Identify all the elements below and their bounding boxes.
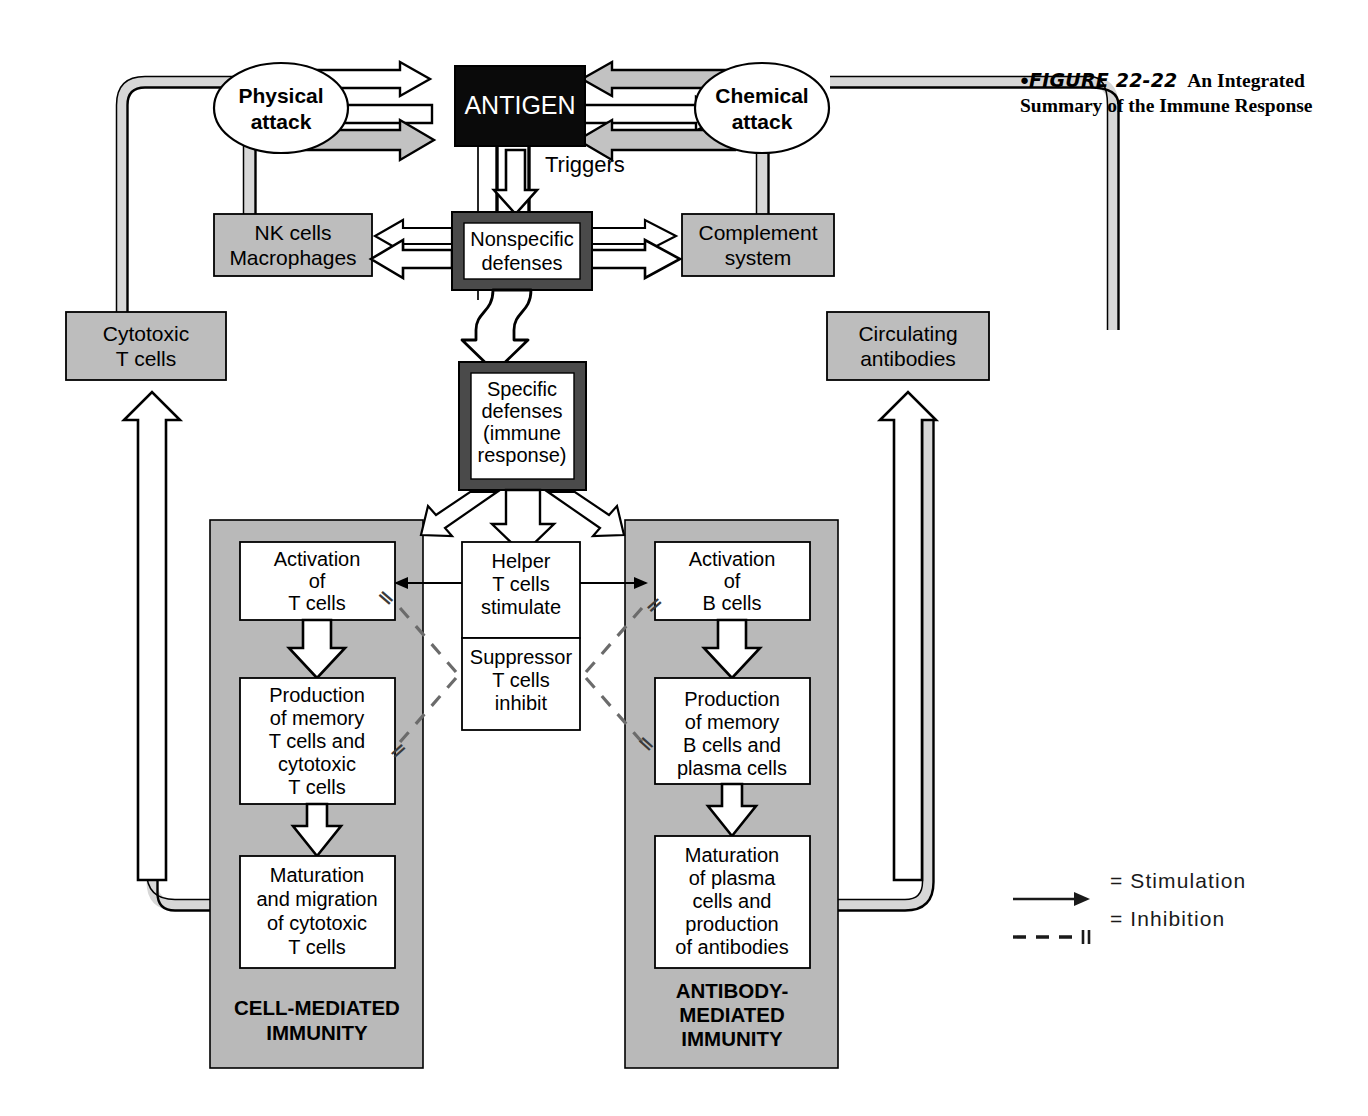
panel-left-label-line2: IMMUNITY [266, 1021, 368, 1044]
node-production-b-line4: plasma cells [677, 757, 787, 779]
figure-canvas: ANTIGEN Physical attack Chemical attack … [0, 0, 1368, 1116]
node-specific-line1: Specific [487, 378, 557, 400]
node-nonspecific-line1: Nonspecific [470, 228, 573, 250]
node-circulating-line1: Circulating [858, 322, 957, 345]
node-activation-t-line3: T cells [288, 592, 345, 614]
node-production-t-line3: T cells and [269, 730, 365, 752]
panel-right-label-line3: IMMUNITY [681, 1027, 783, 1050]
arrow-nonspecific-to-nk-lower [371, 240, 452, 278]
node-helper-line2: T cells [492, 573, 549, 595]
node-maturation-b-line3: cells and [693, 890, 772, 912]
node-chemical-attack[interactable] [695, 63, 829, 153]
arrow-helper-stimulate-t-cells [394, 577, 462, 589]
panel-right-label-line2: MEDIATED [679, 1003, 785, 1026]
label-triggers: Triggers [545, 152, 625, 177]
node-nk-line1: NK cells [254, 221, 331, 244]
legend-row-inhibition: = Inhibition [1010, 900, 1310, 938]
node-cytotoxic-line2: T cells [116, 347, 176, 370]
arrow-specific-to-left-panel [421, 492, 497, 536]
node-maturation-b-line5: of antibodies [675, 936, 788, 958]
arrow-nonspecific-to-specific [462, 290, 531, 372]
node-chemical-attack-line2: attack [732, 110, 793, 133]
arrow-up-to-cytotoxic [124, 392, 180, 880]
node-specific-line4: response) [478, 444, 567, 466]
node-production-t-line5: T cells [288, 776, 345, 798]
panel-right-label-line1: ANTIBODY- [676, 979, 789, 1002]
legend-inhibition-label: = Inhibition [1110, 907, 1225, 931]
node-complement-line2: system [725, 246, 792, 269]
node-production-t-line2: of memory [270, 707, 364, 729]
arrow-helper-stimulate-b-cells [580, 577, 648, 589]
node-activation-t-line2: of [309, 570, 326, 592]
legend-row-stimulation: = Stimulation [1010, 862, 1310, 900]
node-cytotoxic-line1: Cytotoxic [103, 322, 189, 345]
node-chemical-attack-line1: Chemical [715, 84, 808, 107]
node-suppressor-line2: T cells [492, 669, 549, 691]
arrow-nonspecific-to-nk [375, 220, 452, 252]
panel-left-label-line1: CELL-MEDIATED [234, 996, 400, 1019]
node-physical-attack[interactable] [214, 63, 348, 153]
figure-caption: ●FIGURE 22-22 An Integrated Summary of t… [1020, 68, 1350, 119]
node-production-b-line3: B cells and [683, 734, 781, 756]
band-physical-to-nk [244, 140, 256, 216]
arrow-nonspecific-to-complement [588, 220, 676, 252]
node-activation-b-line2: of [724, 570, 741, 592]
node-maturation-t-line2: and migration [256, 888, 377, 910]
node-activation-b-line3: B cells [703, 592, 762, 614]
node-production-b-line2: of memory [685, 711, 779, 733]
node-complement-line1: Complement [698, 221, 817, 244]
node-specific-line2: defenses [481, 400, 562, 422]
node-nonspecific-line2: defenses [481, 252, 562, 274]
node-production-b-line1: Production [684, 688, 780, 710]
node-maturation-t-line3: of cytotoxic [267, 912, 367, 934]
node-production-t-line4: cytotoxic [278, 753, 356, 775]
figure-number: FIGURE 22-22 [1029, 69, 1177, 91]
node-physical-attack-line2: attack [251, 110, 312, 133]
node-helper-line3: stimulate [481, 596, 561, 618]
node-activation-t-line1: Activation [274, 548, 361, 570]
node-production-t-line1: Production [269, 684, 365, 706]
caption-bullet-icon: ● [1020, 72, 1029, 88]
node-physical-attack-line1: Physical [238, 84, 323, 107]
node-nk-line2: Macrophages [229, 246, 356, 269]
node-circulating-line2: antibodies [860, 347, 956, 370]
node-maturation-t-line1: Maturation [270, 864, 365, 886]
immune-response-diagram: ANTIGEN Physical attack Chemical attack … [0, 0, 1368, 1116]
node-maturation-t-line4: T cells [288, 936, 345, 958]
node-suppressor-line3: inhibit [495, 692, 548, 714]
node-antigen-label: ANTIGEN [464, 91, 575, 119]
node-specific-line3: (immune [483, 422, 561, 444]
arrow-nonspecific-to-complement-lower [588, 240, 680, 278]
node-maturation-b-line2: of plasma [689, 867, 777, 889]
node-maturation-b-line1: Maturation [685, 844, 780, 866]
legend-stimulation-label: = Stimulation [1110, 869, 1246, 893]
node-maturation-b-line4: production [685, 913, 778, 935]
node-helper-line1: Helper [492, 550, 551, 572]
arrow-specific-to-right-panel [548, 492, 624, 536]
legend: = Stimulation = Inhibition [1010, 862, 1310, 938]
node-suppressor-line1: Suppressor [470, 646, 573, 668]
node-activation-b-line1: Activation [689, 548, 776, 570]
